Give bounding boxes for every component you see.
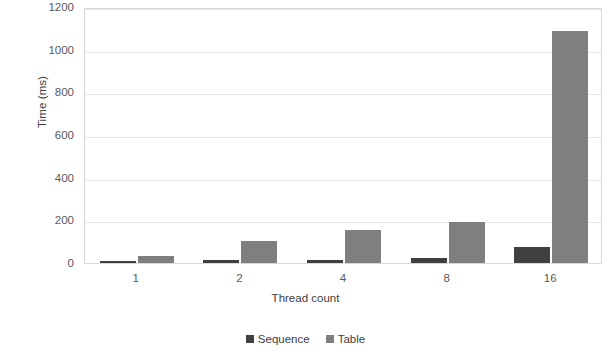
bar-chart: Time (ms) 020040060080010001200 124816 T… — [0, 0, 611, 361]
bar-table-1 — [138, 256, 174, 263]
bar-groups — [85, 9, 601, 263]
bar-table-2 — [241, 241, 277, 263]
x-axis-tick-label: 4 — [313, 272, 373, 284]
y-axis-title: Time (ms) — [36, 62, 48, 142]
legend-swatch-icon — [326, 335, 334, 343]
x-axis-tick-label: 2 — [209, 272, 269, 284]
y-axis-tick-label: 400 — [28, 173, 74, 185]
legend-item-sequence[interactable]: Sequence — [246, 333, 310, 345]
bar-group — [85, 9, 189, 263]
bar-group — [292, 9, 396, 263]
bar-table-4 — [345, 230, 381, 263]
y-axis-tick-label: 200 — [28, 215, 74, 227]
bar-group — [396, 9, 500, 263]
chart-legend: SequenceTable — [0, 333, 611, 345]
y-axis-tick-label: 0 — [28, 258, 74, 270]
x-axis-tick-label: 16 — [520, 272, 580, 284]
y-axis-tick-label: 1000 — [28, 45, 74, 57]
bar-sequence-16 — [514, 247, 550, 263]
x-axis-tick-label: 8 — [417, 272, 477, 284]
bar-sequence-8 — [411, 258, 447, 263]
bar-sequence-4 — [307, 260, 343, 263]
bar-sequence-2 — [203, 260, 239, 263]
legend-label: Sequence — [258, 333, 310, 345]
x-axis-tick-label: 1 — [106, 272, 166, 284]
legend-swatch-icon — [246, 335, 254, 343]
y-axis-tick-label: 800 — [28, 87, 74, 99]
x-axis-title: Thread count — [0, 292, 611, 304]
bar-group — [189, 9, 293, 263]
bar-table-8 — [449, 222, 485, 263]
bar-sequence-1 — [100, 261, 136, 263]
bar-group — [499, 9, 603, 263]
y-axis-tick-label: 1200 — [28, 2, 74, 14]
legend-label: Table — [338, 333, 366, 345]
y-axis-tick-label: 600 — [28, 130, 74, 142]
plot-area — [84, 8, 602, 264]
bar-table-16 — [552, 31, 588, 263]
legend-item-table[interactable]: Table — [326, 333, 366, 345]
